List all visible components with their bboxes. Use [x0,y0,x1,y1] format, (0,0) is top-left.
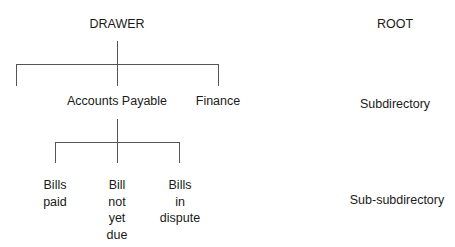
node-text-line: due [97,227,137,244]
node-text-line: Bills [155,177,205,194]
node-text-line: yet [97,210,137,227]
level2-drop-left [55,142,56,163]
node-bills-in-dispute: Bills in dispute [155,177,205,227]
root-node-drawer: DRAWER [87,16,147,33]
legend-sub-subdirectory: Sub-subdirectory [345,192,449,209]
node-text-line: not [97,194,137,211]
legend-root: ROOT [370,16,420,33]
legend-subdirectory: Subdirectory [352,96,438,113]
node-bill-not-yet-due: Bill not yet due [97,177,137,243]
level1-drop-left [16,64,17,86]
node-text-line: Bills [35,177,75,194]
level2-bracket-line [55,142,180,143]
level2-drop-right [179,142,180,163]
level2-connector-line [117,119,118,163]
node-text-line: dispute [155,210,205,227]
level1-bracket-line [16,64,219,65]
level1-drop-right [218,64,219,86]
node-accounts-payable: Accounts Payable [62,93,172,110]
node-text-line: in [155,194,205,211]
node-bills-paid: Bills paid [35,177,75,210]
node-text-line: paid [35,194,75,211]
node-text-line: Bill [97,177,137,194]
node-finance: Finance [190,93,246,110]
